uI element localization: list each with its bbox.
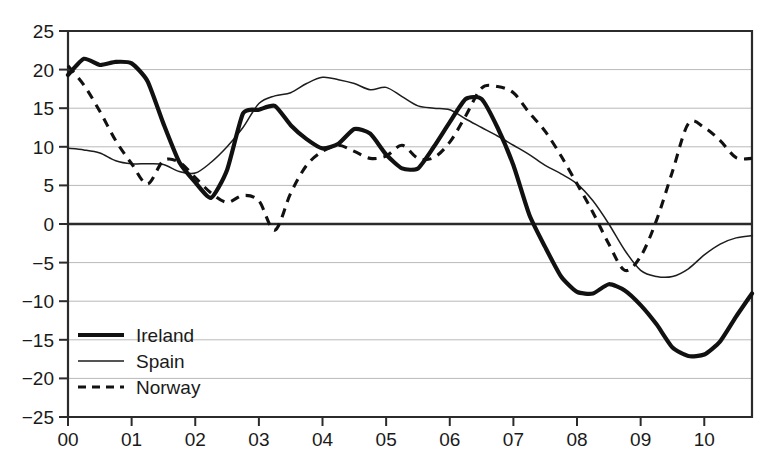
legend-label-ireland: Ireland (136, 325, 194, 346)
x-tick-label: 03 (248, 429, 269, 450)
legend-label-spain: Spain (136, 351, 185, 372)
x-tick-label: 05 (376, 429, 397, 450)
y-tick-label: −15 (22, 330, 54, 351)
y-tick-label: 25 (33, 21, 54, 42)
series-line-spain (68, 77, 752, 277)
series-line-ireland (68, 59, 752, 357)
x-axis-tick-labels: 0001020304050607080910 (57, 429, 714, 450)
x-tick-label: 04 (312, 429, 334, 450)
line-chart-figure: 2520151050−5−10−15−20−25 000102030405060… (0, 0, 771, 467)
chart-legend: IrelandSpainNorway (78, 325, 201, 398)
y-tick-label: 20 (33, 60, 54, 81)
y-tick-label: −25 (22, 407, 54, 428)
y-tick-label: 10 (33, 137, 54, 158)
y-tick-label: −10 (22, 291, 54, 312)
chart-canvas: 2520151050−5−10−15−20−25 000102030405060… (0, 0, 771, 467)
x-tick-label: 10 (694, 429, 715, 450)
legend-label-norway: Norway (136, 377, 201, 398)
x-tick-label: 06 (439, 429, 460, 450)
x-tick-label: 01 (121, 429, 142, 450)
x-tick-label: 00 (57, 429, 78, 450)
y-axis-tick-labels: 2520151050−5−10−15−20−25 (22, 21, 54, 428)
y-tick-label: 5 (43, 175, 54, 196)
data-series (68, 59, 752, 357)
x-tick-label: 08 (566, 429, 587, 450)
x-axis-tick-marks (68, 417, 704, 426)
y-tick-label: 0 (43, 214, 54, 235)
y-tick-label: −20 (22, 368, 54, 389)
x-tick-label: 07 (503, 429, 524, 450)
y-axis-tick-marks (59, 31, 68, 417)
y-tick-label: −5 (32, 253, 54, 274)
x-tick-label: 02 (185, 429, 206, 450)
y-tick-label: 15 (33, 98, 54, 119)
x-tick-label: 09 (630, 429, 651, 450)
